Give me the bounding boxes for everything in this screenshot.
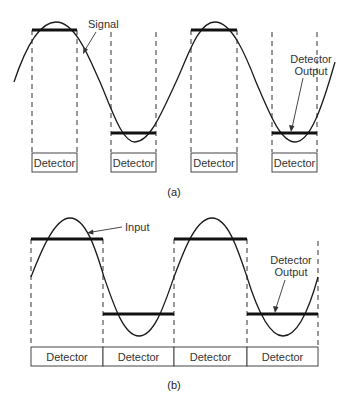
detector-output-label-line2: Output — [274, 266, 307, 278]
detector-output-arrow-line — [292, 78, 303, 128]
detector-label: Detector — [118, 351, 160, 363]
detector-output-arrow-head-icon — [289, 125, 295, 132]
figure-b: Detector Detector Detector Detector Inpu… — [31, 218, 318, 391]
detector-label: Detector — [193, 157, 235, 169]
signal-arrow-line — [85, 32, 96, 50]
input-label: Input — [125, 221, 149, 233]
detector-label: Detector — [262, 351, 304, 363]
detector-label: Detector — [190, 351, 232, 363]
detector-label: Detector — [113, 157, 155, 169]
input-arrow-line — [92, 227, 122, 232]
figure-caption-b: (b) — [167, 379, 180, 391]
detector-label: Detector — [34, 157, 76, 169]
detector-output-bars-a — [32, 30, 317, 133]
figure-caption-a: (a) — [167, 186, 180, 198]
detector-label: Detector — [46, 351, 88, 363]
detector-output-label-line1: Detector — [290, 53, 332, 65]
signal-label: Signal — [88, 18, 119, 30]
detector-output-arrow-line-b — [276, 280, 285, 308]
detector-output-label-line1: Detector — [270, 254, 312, 266]
detector-output-label-line2: Output — [294, 65, 327, 77]
signal-waveform-a — [14, 22, 335, 142]
detector-sampling-diagram: Detector Detector Detector Detector Sign… — [0, 0, 351, 409]
detector-label: Detector — [274, 157, 316, 169]
figure-a: Detector Detector Detector Detector Sign… — [14, 18, 335, 198]
detector-output-arrow-head-icon-b — [273, 306, 279, 313]
